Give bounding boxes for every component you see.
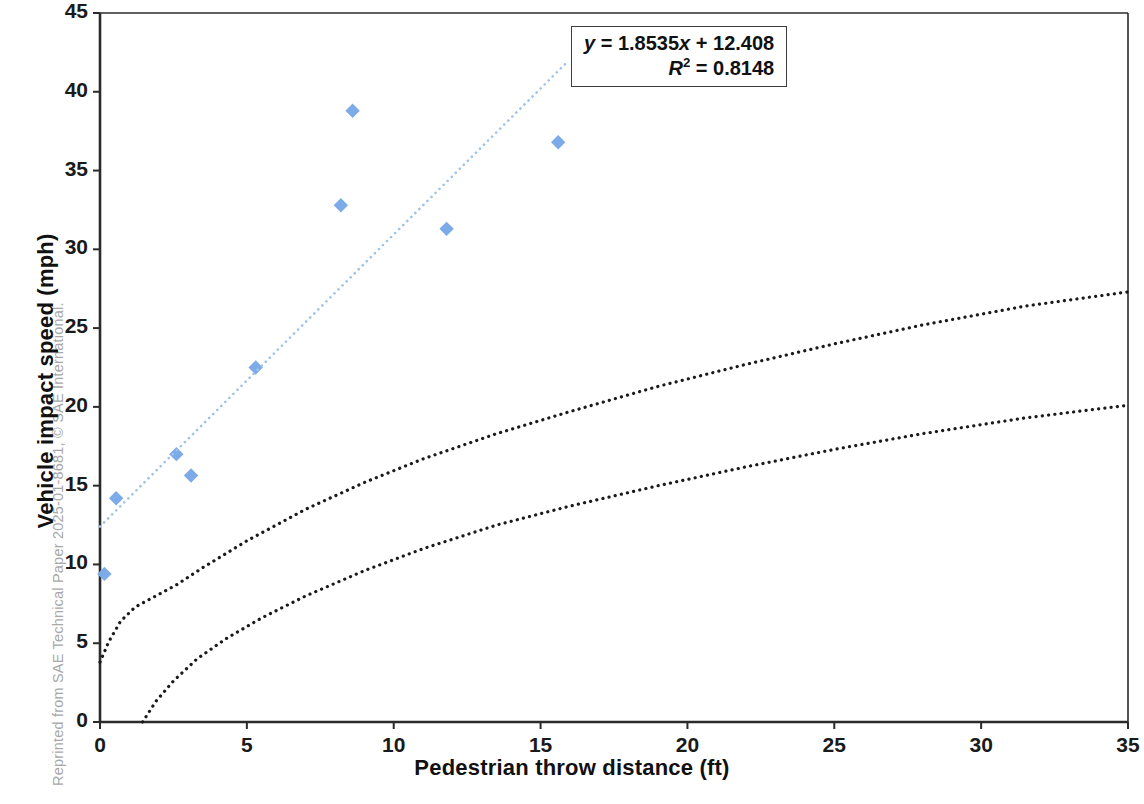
reference-curve — [143, 405, 1128, 722]
r-squared-line: R2 = 0.8148 — [584, 55, 774, 80]
y-tick-label: 45 — [44, 0, 88, 23]
data-series-layer — [97, 61, 1128, 722]
data-point-marker — [248, 360, 262, 374]
y-tick-label: 0 — [44, 708, 88, 732]
scatter-chart-figure: 051015202530354045 05101520253035 Vehicl… — [0, 0, 1144, 804]
x-tick-label: 25 — [804, 733, 864, 757]
axis-tick-marks — [93, 13, 1128, 729]
regression-equation-box: y = 1.8535x + 12.408 R2 = 0.8148 — [571, 26, 787, 87]
trendline — [100, 61, 569, 527]
data-point-marker — [334, 198, 348, 212]
data-point-marker — [109, 491, 123, 505]
x-tick-label: 15 — [511, 733, 571, 757]
eq-r-value-text: = 0.8148 — [690, 57, 774, 79]
x-tick-label: 5 — [217, 733, 277, 757]
x-axis-title: Pedestrian throw distance (ft) — [0, 755, 1144, 781]
data-point-marker — [551, 135, 565, 149]
eq-slope-text: = 1.8535 — [595, 32, 679, 54]
eq-intercept-text: + 12.408 — [690, 32, 774, 54]
y-axis-title: Vehicle impact speed (mph) — [33, 121, 59, 641]
x-tick-label: 35 — [1098, 733, 1144, 757]
data-point-marker — [345, 103, 359, 117]
x-tick-label: 20 — [657, 733, 717, 757]
eq-x-variable: x — [679, 32, 690, 54]
x-tick-label: 30 — [951, 733, 1011, 757]
data-point-marker — [184, 468, 198, 482]
eq-r-variable: R — [668, 57, 682, 79]
regression-equation-line: y = 1.8535x + 12.408 — [584, 31, 774, 55]
y-tick-label: 40 — [44, 78, 88, 102]
eq-y-variable: y — [584, 32, 595, 54]
plot-canvas — [0, 0, 1144, 804]
x-tick-label: 10 — [364, 733, 424, 757]
data-point-marker — [439, 222, 453, 236]
x-tick-label: 0 — [70, 733, 130, 757]
reference-curve — [100, 292, 1128, 662]
